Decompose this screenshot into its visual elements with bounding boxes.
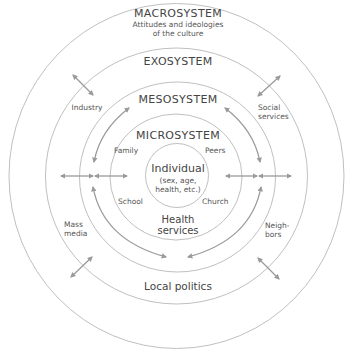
- mesosystem-label: MESOSYSTEM: [118, 94, 238, 106]
- church-label: Church: [202, 198, 238, 206]
- double-arrow-icon-industry: [73, 75, 93, 95]
- mass-media-label-line1: Mass: [64, 221, 104, 229]
- macrosystem-description-line1: Attitudes and ideologies: [108, 21, 248, 29]
- double-arrow-icon-mass-media: [71, 257, 92, 277]
- individual-details-line2: health, etc.): [138, 186, 218, 194]
- individual-details-line1: (sex, age,: [138, 177, 218, 185]
- social-services-label-line2: services: [258, 113, 298, 121]
- neighbors-label-line2: bors: [265, 231, 305, 239]
- local-politics-label: Local politics: [118, 281, 238, 293]
- microsystem-label: MICROSYSTEM: [118, 130, 238, 142]
- peers-label: Peers: [205, 147, 241, 155]
- individual-label: Individual: [138, 163, 218, 175]
- neighbors-label-line1: Neigh-: [265, 222, 305, 230]
- social-services-label-line1: Social: [258, 104, 298, 112]
- industry-label: Industry: [62, 104, 112, 112]
- school-label: School: [118, 198, 154, 206]
- health-services-label-line1: Health: [138, 215, 218, 226]
- macrosystem-description-line2: of the culture: [108, 30, 248, 38]
- mass-media-label-line2: media: [64, 230, 104, 238]
- double-arrow-icon-neighbors: [258, 258, 279, 279]
- family-label: Family: [114, 147, 150, 155]
- macrosystem-label: MACROSYSTEM: [118, 8, 238, 20]
- health-services-label-line2: services: [138, 226, 218, 237]
- exosystem-label: EXOSYSTEM: [118, 56, 238, 68]
